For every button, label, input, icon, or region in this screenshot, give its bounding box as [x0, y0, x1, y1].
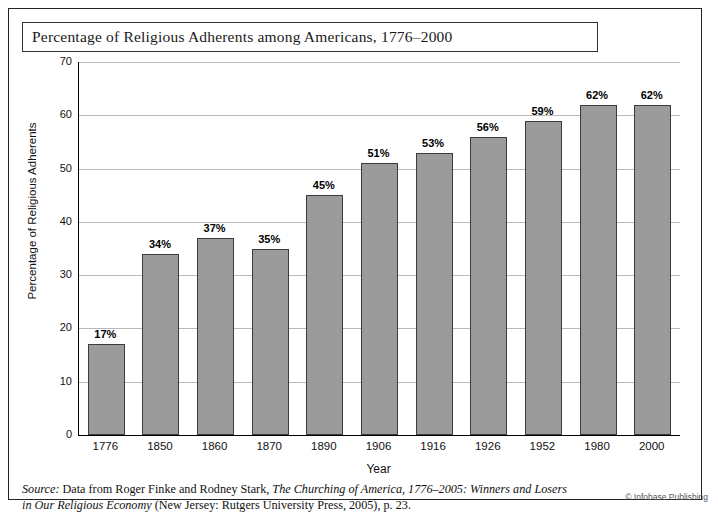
x-axis-tick-label: 1870 [239, 440, 299, 452]
bar-1906 [361, 163, 398, 435]
bar-value-label: 62% [567, 89, 627, 101]
bar-1776 [88, 344, 125, 435]
x-axis-tick-label: 2000 [622, 440, 682, 452]
bar-1980 [580, 105, 617, 435]
bar-value-label: 56% [458, 121, 518, 133]
bar-value-label: 34% [130, 238, 190, 250]
y-axis-tick-label: 10 [44, 375, 72, 387]
source-title-part1: The Churching of America, 1776–2005: Win… [272, 482, 567, 496]
x-axis-tick-label: 1952 [512, 440, 572, 452]
x-axis-title: Year [78, 462, 679, 476]
y-axis-tick-labels: 010203040506070 [40, 62, 72, 435]
source-note: Source: Data from Roger Finke and Rodney… [22, 481, 582, 512]
bar-value-label: 35% [239, 233, 299, 245]
bar-1870 [252, 249, 289, 436]
bar-value-label: 59% [512, 105, 572, 117]
x-axis-tick-label: 1926 [458, 440, 518, 452]
bar-2000 [634, 105, 671, 435]
x-axis-tick-label: 1776 [75, 440, 135, 452]
x-axis-tick-label: 1850 [130, 440, 190, 452]
y-axis-tick-label: 50 [44, 162, 72, 174]
bar-value-label: 37% [185, 222, 245, 234]
bar-1916 [416, 153, 453, 435]
source-label: Source: [22, 482, 59, 496]
y-axis-tick-label: 40 [44, 215, 72, 227]
y-axis-tick-label: 0 [44, 428, 72, 440]
source-text-b: (New Jersey: Rutgers University Press, 2… [152, 498, 411, 512]
bar-1952 [525, 121, 562, 435]
bar-1890 [306, 195, 343, 435]
y-axis-tick-label: 60 [44, 108, 72, 120]
chart-page: Percentage of Religious Adherents among … [0, 0, 718, 512]
y-axis-tick-label: 70 [44, 55, 72, 67]
bar-value-label: 45% [294, 179, 354, 191]
bar-value-label: 51% [349, 147, 409, 159]
source-title-part2: in Our Religious Economy [22, 498, 152, 512]
x-axis-tick-label: 1860 [185, 440, 245, 452]
page-title: Percentage of Religious Adherents among … [23, 28, 453, 46]
bar-value-label: 53% [403, 137, 463, 149]
x-axis-tick-label: 1916 [403, 440, 463, 452]
bar-value-label: 62% [622, 89, 682, 101]
x-axis-tick-label: 1890 [294, 440, 354, 452]
bar-1850 [142, 254, 179, 435]
y-axis-title: Percentage of Religious Adherents [26, 61, 38, 361]
x-axis-tick-label: 1980 [567, 440, 627, 452]
bar-1860 [197, 238, 234, 435]
y-axis-tick-label: 30 [44, 268, 72, 280]
bar-1926 [470, 137, 507, 435]
x-axis-tick-label: 1906 [349, 440, 409, 452]
gridline [79, 62, 680, 63]
source-text-a: Data from Roger Finke and Rodney Stark, [59, 482, 272, 496]
chart-title-box: Percentage of Religious Adherents among … [22, 22, 598, 52]
bar-value-label: 17% [75, 328, 135, 340]
publisher-credit: © Infobase Publishing [625, 492, 708, 502]
y-axis-tick-label: 20 [44, 321, 72, 333]
